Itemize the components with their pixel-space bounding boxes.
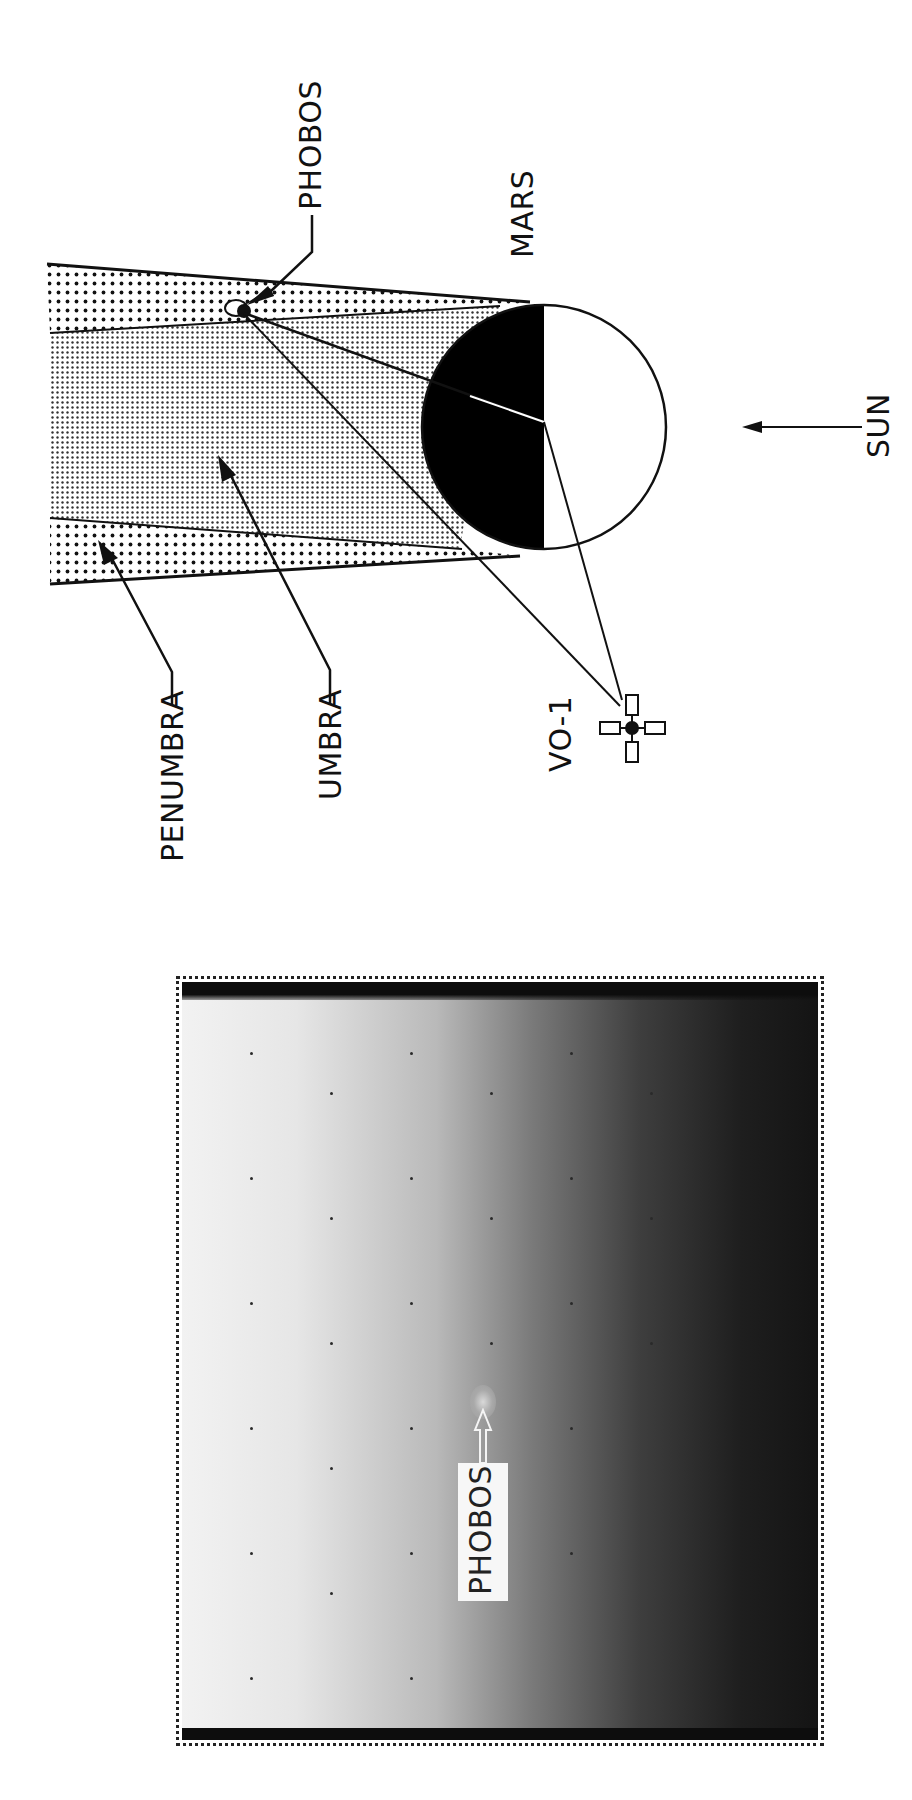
- sun-label: SUN: [864, 393, 894, 458]
- penumbra-label: PENUMBRA: [158, 690, 188, 862]
- shadow-geometry-diagram: [0, 0, 912, 960]
- umbra-label: UMBRA: [316, 689, 346, 800]
- photo-bottom-band: [182, 1728, 818, 1740]
- spacecraft-icon: [600, 695, 665, 762]
- figure: PHOBOS MARS SUN PENUMBRA UMBRA VO-1: [0, 0, 912, 1800]
- photo-top-band: [182, 982, 818, 1000]
- mars-icon: [422, 305, 666, 549]
- sun-direction-arrow: [742, 421, 862, 433]
- mars-label: MARS: [508, 170, 538, 258]
- photo-arrow-icon: [472, 1408, 494, 1464]
- phobos-label: PHOBOS: [296, 80, 326, 210]
- spacecraft-label: VO-1: [546, 696, 576, 772]
- photo-phobos-label-box: PHOBOS: [458, 1463, 508, 1601]
- phobos-photograph: PHOBOS: [176, 976, 824, 1746]
- photo-phobos-label: PHOBOS: [466, 1465, 496, 1595]
- photo-image: PHOBOS: [182, 982, 818, 1740]
